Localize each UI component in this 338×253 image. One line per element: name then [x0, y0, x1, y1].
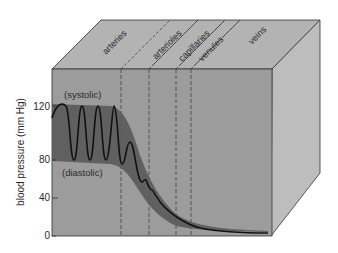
y-tick-40: 40 — [39, 192, 51, 203]
systolic-label: (systolic) — [64, 89, 101, 100]
y-axis-label: blood pressure (mm Hg) — [15, 98, 26, 206]
y-tick-0: 0 — [44, 230, 50, 241]
diastolic-label: (diastolic) — [62, 167, 103, 178]
y-tick-80: 80 — [39, 154, 51, 165]
y-tick-120: 120 — [33, 101, 50, 112]
blood-pressure-diagram: 120 80 40 0 blood pressure (mm Hg) (syst… — [0, 0, 338, 253]
